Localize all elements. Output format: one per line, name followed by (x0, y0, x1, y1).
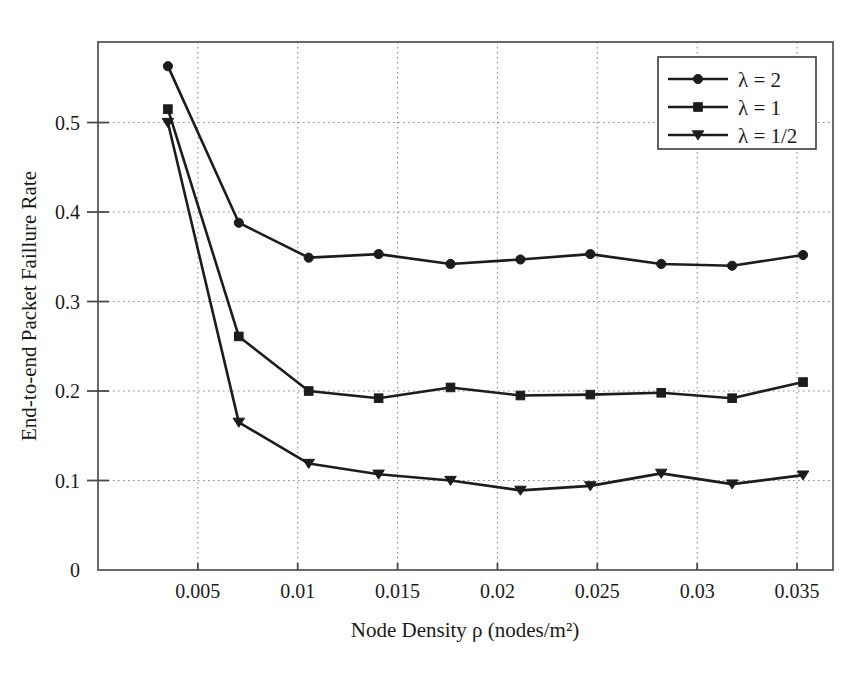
data-point-marker (657, 259, 666, 268)
x-tick-label: 0.015 (375, 580, 420, 602)
x-tick-label: 0.02 (480, 580, 515, 602)
data-point-marker (304, 387, 313, 396)
y-axis-title: End-to-end Packet Faillure Rate (17, 171, 41, 441)
legend-label: λ = 1 (738, 96, 781, 120)
x-tick-label: 0.035 (775, 580, 820, 602)
data-point-marker (586, 250, 595, 259)
data-point-marker (657, 389, 666, 398)
x-tick-label: 0.01 (280, 580, 315, 602)
data-point-marker (374, 394, 383, 403)
data-point-marker (799, 378, 808, 387)
x-tick-label: 0.025 (575, 580, 620, 602)
y-tick-label: 0.5 (55, 112, 80, 134)
legend-square-marker (694, 103, 703, 112)
y-tick-label: 0 (70, 559, 80, 581)
data-point-marker (374, 250, 383, 259)
data-point-marker (586, 390, 595, 399)
y-tick-label: 0.1 (55, 470, 80, 492)
line-chart: 0.0050.010.0150.020.0250.030.035 00.10.2… (0, 0, 865, 678)
data-point-marker (446, 259, 455, 268)
legend-circle-marker (693, 74, 702, 83)
data-point-marker (798, 250, 807, 259)
y-tick-label: 0.4 (55, 201, 80, 223)
data-point-marker (304, 253, 313, 262)
data-point-marker (728, 394, 737, 403)
data-point-marker (163, 62, 172, 71)
chart-figure: 0.0050.010.0150.020.0250.030.035 00.10.2… (0, 0, 865, 678)
data-point-marker (164, 105, 173, 114)
data-point-marker (516, 255, 525, 264)
chart-legend[interactable]: λ = 2λ = 1λ = 1/2 (658, 57, 816, 149)
x-tick-label: 0.005 (175, 580, 220, 602)
data-point-marker (235, 332, 244, 341)
y-tick-label: 0.3 (55, 291, 80, 313)
data-point-marker (234, 218, 243, 227)
legend-label: λ = 1/2 (738, 124, 797, 148)
legend-label: λ = 2 (738, 68, 781, 92)
data-point-marker (516, 391, 525, 400)
y-tick-label: 0.2 (55, 380, 80, 402)
data-point-marker (446, 383, 455, 392)
data-point-marker (728, 261, 737, 270)
x-axis-title: Node Density ρ (nodes/m²) (351, 618, 580, 642)
x-tick-label: 0.03 (680, 580, 715, 602)
